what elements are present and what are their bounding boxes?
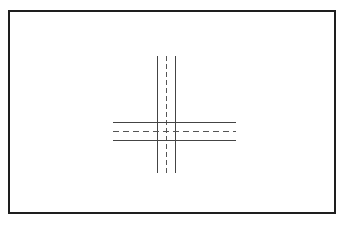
intersection-diagram (0, 0, 347, 225)
horizontal-road (113, 123, 236, 141)
vertical-road (158, 56, 176, 173)
